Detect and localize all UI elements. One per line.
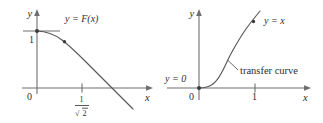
right-y-axis-arrowhead	[196, 9, 202, 16]
figure-root: y = F(x) y x 1 0 1 √ 2	[0, 0, 323, 123]
right-plot-svg: y x 0 1 y = 0 y = x transfer curve	[161, 0, 323, 123]
right-figure-panel: y x 0 1 y = 0 y = x transfer curve	[161, 0, 323, 123]
right-line-label: y = x	[263, 15, 285, 26]
left-y-tick-label-one: 1	[29, 34, 34, 45]
right-origin-label: 0	[189, 91, 194, 102]
left-x-axis-arrowhead	[146, 85, 153, 91]
left-curve-label: y = F(x)	[64, 13, 99, 25]
left-x-tick-label-fraction: 1 √ 2	[75, 95, 89, 118]
right-x-tick-label-one: 1	[252, 91, 257, 102]
fraction-denominator: 2	[83, 109, 87, 118]
right-curve-point-origin	[197, 86, 201, 90]
left-origin-label: 0	[27, 91, 32, 102]
right-transfer-curve-callout: transfer curve	[240, 65, 298, 76]
left-curve-F-of-x	[37, 31, 133, 109]
left-curve-point-mid	[63, 40, 66, 43]
right-curve-point-on-line	[252, 20, 255, 23]
left-figure-panel: y = F(x) y x 1 0 1 √ 2	[0, 0, 161, 123]
right-x-axis-arrowhead	[304, 85, 311, 91]
fraction-denominator-radical: √	[75, 109, 80, 118]
fraction-numerator: 1	[80, 95, 84, 104]
right-asymptote-label: y = 0	[164, 73, 186, 84]
left-plot-svg: y = F(x) y x 1 0 1 √ 2	[0, 0, 161, 123]
left-y-axis-arrowhead	[34, 9, 40, 16]
right-callout-leader-line	[228, 60, 239, 70]
right-transfer-curve	[199, 11, 260, 88]
left-x-axis-label: x	[144, 92, 150, 103]
left-y-axis-label: y	[27, 8, 33, 19]
right-y-axis-label: y	[189, 8, 195, 19]
right-x-axis-label: x	[302, 92, 308, 103]
left-curve-point-origin	[35, 29, 39, 33]
